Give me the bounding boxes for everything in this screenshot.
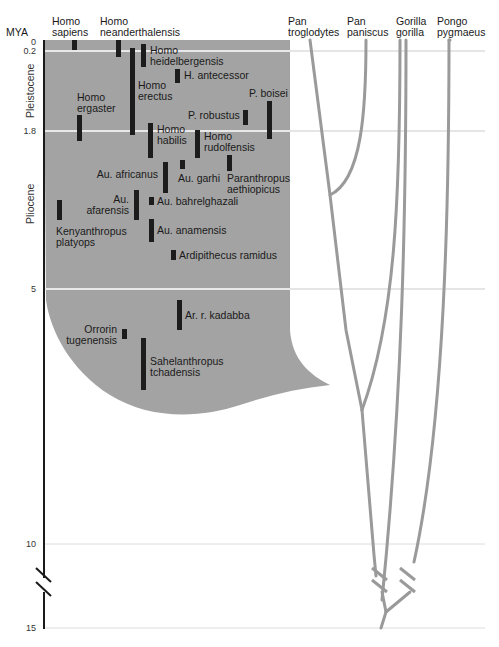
label-homo-ergaster: Homo ergaster bbox=[77, 92, 116, 114]
tick-10: 10 bbox=[10, 539, 36, 549]
header-homo-sapiens: Homo sapiens bbox=[52, 16, 88, 38]
label-sahelanthropus-tchadensis: Sahelanthropus tchadensis bbox=[150, 356, 224, 378]
header-line: pygmaeus bbox=[437, 27, 485, 38]
label-ar-r-kadabba: Ar. r. kadabba bbox=[185, 310, 250, 321]
bar-au-anamensis bbox=[149, 219, 154, 242]
bar-au-africanus bbox=[163, 162, 168, 193]
bar-ardipithecus-ramidus bbox=[171, 250, 176, 260]
header-line: sapiens bbox=[52, 27, 88, 38]
label-line: tugenensis bbox=[60, 335, 117, 346]
branch-pan-clade bbox=[362, 40, 400, 410]
branch-lower-right bbox=[386, 592, 410, 612]
tick-15: 15 bbox=[10, 623, 36, 633]
bar-ar-r-kadabba bbox=[177, 300, 182, 330]
bar-orrorin-tugenensis bbox=[122, 329, 127, 339]
bar-au-bahrelghazali bbox=[149, 197, 154, 205]
label-homo-rudolfensis: Homo rudolfensis bbox=[204, 131, 255, 153]
label-au-africanus: Au. africanus bbox=[96, 169, 158, 180]
bar-p-robustus bbox=[243, 110, 248, 125]
header-line: paniscus bbox=[347, 27, 388, 38]
label-homo-heidelbergensis: Homo heidelbergensis bbox=[150, 45, 224, 67]
label-orrorin-tugenensis: Orrorin tugenensis bbox=[60, 324, 117, 346]
label-line: tchadensis bbox=[150, 367, 224, 378]
label-kenyanthropus-platyops: Kenyanthropus platyops bbox=[56, 226, 127, 248]
label-au-afarensis: Au. afarensis bbox=[84, 194, 129, 216]
label-line: heidelbergensis bbox=[150, 56, 224, 67]
label-au-garhi: Au. garhi bbox=[178, 173, 220, 184]
label-line: platyops bbox=[56, 237, 127, 248]
branch-break-right-2 bbox=[400, 580, 415, 592]
bar-au-garhi bbox=[180, 160, 185, 169]
label-line: aethiopicus bbox=[227, 184, 290, 195]
label-ardipithecus-ramidus: Ardipithecus ramidus bbox=[179, 250, 277, 261]
epoch-pleistocene: Pleistocene bbox=[24, 64, 36, 118]
header-pan-paniscus: Pan paniscus bbox=[347, 16, 388, 38]
header-line: neanderthalensis bbox=[100, 27, 180, 38]
bar-homo-ergaster bbox=[77, 115, 82, 141]
branch-pan-paniscus bbox=[330, 40, 366, 195]
label-line: erectus bbox=[138, 91, 172, 102]
bar-homo-sapiens bbox=[72, 40, 77, 50]
label-au-bahrelghazali: Au. bahrelghazali bbox=[157, 196, 238, 207]
branch-pan-troglodytes bbox=[310, 40, 362, 410]
branch-pan-gorilla-stem bbox=[362, 410, 376, 576]
label-line: ergaster bbox=[77, 103, 116, 114]
epoch-pliocene: Pliocene bbox=[24, 184, 36, 224]
branch-gorilla bbox=[414, 40, 449, 562]
bar-sahelanthropus-tchadensis bbox=[141, 338, 146, 390]
header-line: troglodytes bbox=[288, 27, 339, 38]
label-p-boisei: P. boisei bbox=[249, 88, 288, 99]
branch-break-right-1 bbox=[400, 568, 415, 580]
label-homo-habilis: Homo habilis bbox=[157, 124, 187, 146]
label-homo-erectus: Homo erectus bbox=[138, 80, 172, 102]
bar-homo-rudolfensis bbox=[195, 130, 200, 158]
bar-homo-neanderthalensis bbox=[116, 40, 121, 57]
header-homo-neanderthalensis: Homo neanderthalensis bbox=[100, 16, 180, 38]
header-gorilla-gorilla: Gorilla gorilla bbox=[396, 16, 426, 38]
label-line: rudolfensis bbox=[204, 142, 255, 153]
bar-kenyanthropus-platyops bbox=[57, 200, 62, 220]
tick-0.2: 0.2 bbox=[10, 46, 36, 56]
bar-homo-habilis bbox=[148, 123, 153, 158]
label-line: habilis bbox=[157, 135, 187, 146]
header-pongo-pygmaeus: Pongo pygmaeus bbox=[437, 16, 485, 38]
phylogeny-diagram: MYA Homo sapiens Homo neanderthalensis P… bbox=[0, 0, 499, 647]
label-paranthropus-aethiopicus: Paranthropus aethiopicus bbox=[227, 173, 290, 195]
label-line: afarensis bbox=[84, 205, 129, 216]
tick-1.8: 1.8 bbox=[10, 126, 36, 136]
bar-homo-heidelbergensis bbox=[141, 44, 146, 67]
label-h-antecessor: H. antecessor bbox=[184, 70, 249, 81]
header-line: gorilla bbox=[396, 27, 426, 38]
label-p-robustus: P. robustus bbox=[188, 110, 240, 121]
tick-5: 5 bbox=[10, 284, 36, 294]
bar-p-boisei bbox=[267, 101, 272, 139]
bar-h-antecessor bbox=[175, 69, 180, 83]
branch-root bbox=[381, 612, 386, 628]
header-pan-troglodytes: Pan troglodytes bbox=[288, 16, 339, 38]
bar-homo-erectus bbox=[130, 48, 135, 135]
label-au-anamensis: Au. anamensis bbox=[157, 225, 226, 236]
bar-paranthropus-aethiopicus bbox=[227, 155, 232, 171]
bar-au-afarensis bbox=[134, 190, 139, 220]
